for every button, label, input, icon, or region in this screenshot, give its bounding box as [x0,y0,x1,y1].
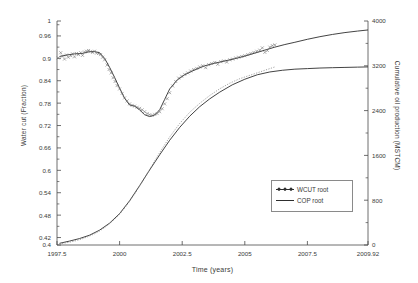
legend-label-wcut: WCUT root [297,186,328,193]
legend-item-wcut: WCUT root [276,186,328,193]
chart-figure: Water cut (Fraction) Cumulative oil prod… [0,0,418,283]
legend-line-markers-icon [276,186,294,193]
legend-label-cop: COP root [297,197,323,204]
series-2 [60,67,369,243]
legend-line-icon [276,197,294,204]
plot-area [0,0,418,283]
series-0 [60,30,369,117]
legend-item-cop: COP root [276,197,323,204]
chart-legend: WCUT root COP root [271,180,353,212]
